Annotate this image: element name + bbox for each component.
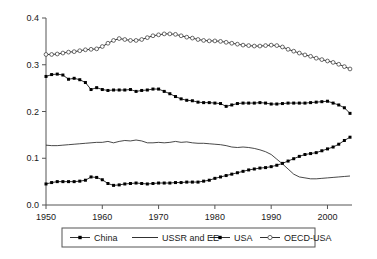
data-point-marker — [326, 100, 329, 103]
data-point-marker — [168, 182, 171, 185]
data-point-marker — [281, 45, 285, 49]
data-point-marker — [219, 39, 223, 43]
data-point-marker — [101, 88, 104, 91]
data-point-marker — [112, 39, 116, 43]
data-point-marker — [331, 61, 335, 65]
chart-figure: 0.00.10.20.30.4 195019601970198019902000… — [0, 0, 377, 259]
data-point-marker — [309, 152, 312, 155]
data-point-marker — [258, 167, 261, 170]
data-point-marker — [225, 174, 228, 177]
data-point-marker — [320, 58, 324, 62]
data-point-marker — [258, 101, 261, 104]
data-point-marker — [337, 143, 340, 146]
data-point-marker — [326, 147, 329, 150]
data-point-marker — [134, 39, 138, 43]
data-point-marker — [185, 35, 189, 39]
data-point-marker — [230, 103, 233, 106]
data-point-marker — [168, 92, 171, 95]
data-point-marker — [320, 149, 323, 152]
data-point-marker — [67, 50, 71, 54]
data-point-marker — [95, 176, 98, 179]
data-point-marker — [275, 103, 278, 106]
data-point-marker — [106, 41, 110, 45]
data-point-marker — [190, 36, 194, 40]
data-point-marker — [61, 180, 64, 183]
data-point-marker — [95, 47, 99, 51]
data-point-marker — [157, 88, 160, 91]
data-point-marker — [236, 102, 239, 105]
data-point-marker — [287, 160, 290, 163]
data-point-marker — [247, 102, 250, 105]
data-point-marker — [151, 182, 154, 185]
data-point-marker — [225, 105, 228, 108]
line-chart: 0.00.10.20.30.4 195019601970198019902000… — [0, 0, 377, 259]
x-tick-label: 1980 — [205, 212, 225, 222]
legend-marker — [78, 236, 81, 239]
data-point-marker — [174, 95, 177, 98]
data-point-marker — [309, 101, 312, 104]
data-point-marker — [89, 47, 93, 51]
data-point-marker — [298, 102, 301, 105]
data-point-marker — [349, 112, 352, 115]
data-point-marker — [219, 102, 222, 105]
data-point-marker — [303, 102, 306, 105]
legend-marker — [218, 236, 221, 239]
data-point-marker — [84, 48, 88, 52]
data-point-marker — [50, 181, 53, 184]
data-point-marker — [236, 42, 240, 46]
data-point-marker — [123, 182, 126, 185]
data-point-marker — [179, 34, 183, 38]
data-point-marker — [162, 32, 166, 36]
data-point-marker — [202, 180, 205, 183]
data-point-marker — [197, 101, 200, 104]
data-point-marker — [332, 102, 335, 105]
data-point-marker — [151, 88, 154, 91]
data-point-marker — [129, 39, 133, 43]
data-point-marker — [242, 102, 245, 105]
data-point-marker — [208, 101, 211, 104]
data-point-marker — [349, 136, 352, 139]
data-point-marker — [45, 75, 48, 78]
data-point-marker — [84, 81, 87, 84]
data-point-marker — [145, 36, 149, 40]
data-point-marker — [224, 40, 228, 44]
data-point-marker — [78, 180, 81, 183]
data-point-marker — [337, 103, 340, 106]
data-point-marker — [146, 182, 149, 185]
data-point-marker — [56, 73, 59, 76]
data-point-marker — [207, 39, 211, 43]
data-point-marker — [281, 102, 284, 105]
chart-legend: ChinaUSSR and EEUSAOECD-USA — [62, 228, 332, 247]
data-point-marker — [140, 89, 143, 92]
data-point-marker — [270, 165, 273, 168]
data-point-marker — [140, 38, 144, 42]
data-point-marker — [118, 183, 121, 186]
data-point-marker — [106, 182, 109, 185]
data-point-marker — [50, 73, 53, 76]
data-point-marker — [337, 62, 341, 66]
data-point-marker — [242, 170, 245, 173]
legend-label: OECD-USA — [284, 233, 332, 243]
data-point-marker — [315, 151, 318, 154]
data-point-marker — [56, 180, 59, 183]
legend-label: USA — [234, 233, 253, 243]
data-point-marker — [174, 181, 177, 184]
data-point-marker — [213, 102, 216, 105]
data-point-marker — [264, 102, 267, 105]
data-point-marker — [157, 33, 161, 37]
data-point-marker — [219, 175, 222, 178]
data-point-marker — [135, 90, 138, 93]
data-point-marker — [180, 97, 183, 100]
data-point-marker — [326, 59, 330, 63]
data-point-marker — [343, 139, 346, 142]
data-point-marker — [230, 41, 234, 45]
data-point-marker — [151, 34, 155, 38]
data-point-marker — [95, 86, 98, 89]
data-point-marker — [61, 51, 65, 55]
x-tick-label: 1970 — [149, 212, 169, 222]
data-point-marker — [191, 181, 194, 184]
data-point-marker — [191, 99, 194, 102]
data-point-marker — [292, 157, 295, 160]
data-point-marker — [100, 45, 104, 49]
data-point-marker — [61, 74, 64, 77]
